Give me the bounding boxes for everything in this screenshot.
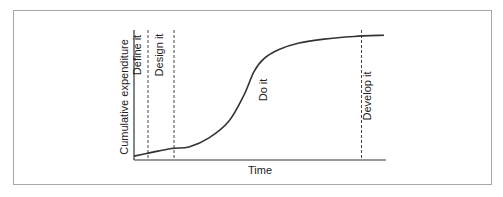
phase-label: Define it [131,35,143,75]
phase-label: Develop it [361,72,373,121]
x-axis-label: Time [248,164,272,176]
phase-label: Design it [153,34,165,77]
y-axis-label: Cumulative expenditure [118,39,130,155]
phase-label: Do it [257,79,269,102]
expenditure-chart: Cumulative expenditure Time Define itDes… [0,0,503,197]
